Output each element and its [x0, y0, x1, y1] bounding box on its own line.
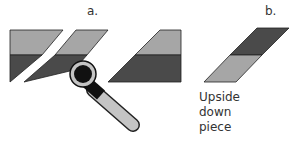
upside-down-caption: Upside down piece [199, 90, 240, 135]
upside-down-piece [204, 28, 289, 82]
caption-line-2: down [199, 105, 240, 120]
strip-piece-3 [108, 30, 181, 82]
diagram [0, 0, 299, 146]
caption-line-3: piece [199, 120, 240, 135]
caption-line-1: Upside [199, 90, 240, 105]
